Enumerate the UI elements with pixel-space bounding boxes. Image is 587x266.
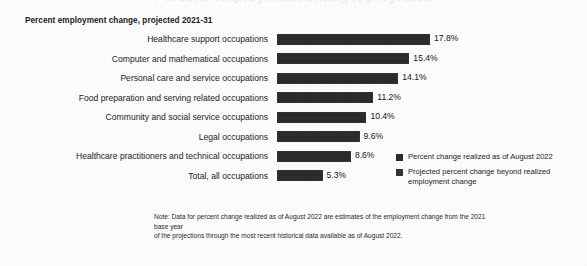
category-label: Total, all occupations (0, 170, 268, 182)
legend-item[interactable]: Projected percent change beyond realized… (396, 167, 586, 187)
bar-row: Community and social service occupations… (0, 111, 587, 123)
bar (277, 170, 323, 181)
legend-swatch-icon (396, 154, 403, 161)
category-label: Legal occupations (0, 131, 268, 143)
bar-value-label: 11.2% (377, 92, 401, 103)
category-label: Community and social service occupations (0, 111, 268, 123)
bar-row: Personal care and service occupations14.… (0, 72, 587, 84)
footnote-line-2: of the projections through the most rece… (154, 231, 499, 241)
chart-footnote: Note: Data for percent change realized a… (154, 212, 499, 241)
chart-subtitle: Percent employment change, projected 202… (25, 16, 212, 25)
legend-label: Percent change realized as of August 202… (408, 152, 586, 162)
bar (277, 131, 360, 142)
bar-track (277, 53, 430, 64)
category-label: Personal care and service occupations (0, 72, 268, 84)
clipped-headline: Percent employment change, projected (0, 0, 587, 9)
category-label: Healthcare support occupations (0, 33, 268, 45)
bar-track (277, 92, 430, 103)
category-label: Food preparation and serving related occ… (0, 92, 268, 104)
bar-value-label: 8.6% (355, 150, 375, 161)
bar (277, 73, 398, 84)
bar-value-label: 5.3% (327, 170, 347, 181)
bar-track (277, 34, 430, 45)
bar-row: Legal occupations9.6% (0, 131, 587, 143)
category-label: Computer and mathematical occupations (0, 53, 268, 65)
legend-label: Projected percent change beyond realized… (408, 167, 586, 187)
category-label: Healthcare practitioners and technical o… (0, 150, 268, 162)
footnote-line-1: Note: Data for percent change realized a… (154, 212, 499, 231)
bar (277, 92, 373, 103)
bar-value-label: 9.6% (364, 131, 384, 142)
bar (277, 151, 351, 162)
bar-value-label: 10.4% (370, 111, 394, 122)
clipped-headline-text: Percent employment change, projected (153, 0, 433, 4)
bar (277, 112, 366, 123)
bar (277, 53, 409, 64)
bar (277, 34, 430, 45)
legend-item[interactable]: Percent change realized as of August 202… (396, 152, 586, 162)
bar-track (277, 112, 430, 123)
bar-value-label: 15.4% (413, 53, 437, 64)
bar-track (277, 131, 430, 142)
bar-value-label: 17.8% (434, 33, 458, 44)
legend-swatch-icon (396, 169, 403, 176)
bar-row: Computer and mathematical occupations15.… (0, 53, 587, 65)
bar-row: Healthcare support occupations17.8% (0, 33, 587, 45)
bar-row: Food preparation and serving related occ… (0, 92, 587, 104)
chart-legend: Percent change realized as of August 202… (396, 152, 586, 192)
bar-value-label: 14.1% (402, 72, 426, 83)
